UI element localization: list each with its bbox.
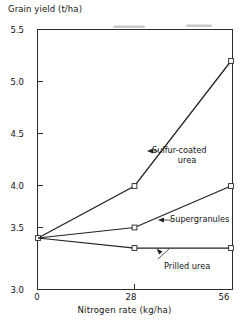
data-point-sulfur-56 (229, 59, 234, 64)
plot-area (0, 0, 249, 320)
leader-arrowhead-sulfur (147, 148, 153, 153)
series-prilled-urea (38, 238, 233, 250)
leader-prilled-urea (157, 249, 170, 260)
series-supergranules (38, 184, 233, 238)
data-point-prilled-28 (132, 246, 137, 251)
series-line-sulfur-coated-urea (38, 61, 231, 238)
scan-artifact-smudge-left (113, 26, 145, 28)
data-point-supergranules-28 (132, 225, 137, 230)
leader-supergranules (158, 217, 172, 222)
leader-sulfur-coated-urea (147, 148, 158, 153)
data-point-sulfur-28 (132, 184, 137, 189)
series-sulfur-coated-urea (36, 59, 234, 241)
leader-arrowhead-prilled (157, 249, 163, 255)
data-point-supergranules-56 (229, 184, 234, 189)
data-point-prilled-56 (229, 246, 234, 251)
grain-yield-nitrogen-rate-chart: Grain yield (t/ha) 5.5 5.0 4.5 4.0 3.5 3… (0, 0, 249, 320)
scan-artifact-smudge-right (186, 25, 212, 27)
leader-arrowhead-supergranules (158, 217, 164, 222)
